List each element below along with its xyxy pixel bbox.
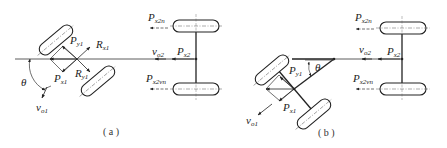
- wheel-rear-lower-b: [376, 80, 430, 100]
- label-Px2n-b: Px2n: [354, 11, 372, 25]
- wheel-front-lower: [76, 61, 120, 101]
- label-theta-b: θ: [315, 61, 321, 73]
- label-Px1-b: Px1: [282, 101, 296, 115]
- label-Px2n: Px2n: [147, 11, 165, 25]
- label-Rx1: Rx1: [95, 38, 109, 52]
- wheel-front-upper-b: [250, 50, 294, 90]
- caption-a: ( a ): [103, 126, 119, 138]
- label-Px2vn: Px2vn: [145, 72, 166, 86]
- label-Ry1: Ry1: [74, 67, 88, 81]
- caption-b: ( b ): [318, 127, 335, 139]
- wheel-rear-upper-b: [376, 16, 430, 38]
- label-Px1: Px1: [53, 72, 67, 86]
- label-theta: θ: [21, 76, 27, 88]
- wheel-rear-lower: [170, 80, 222, 100]
- label-Py1-b: Py1: [288, 64, 302, 78]
- label-vo2: vo2: [152, 45, 164, 59]
- label-Py1: Py1: [69, 34, 83, 48]
- figure: Py1 Rx1 Ry1 Px1 θ vo1 vo2 Px2 Px2n Px2vn…: [0, 0, 447, 148]
- label-vo1-b: vo1: [246, 114, 258, 128]
- panel-a: Py1 Rx1 Ry1 Px1 θ vo1 vo2 Px2 Px2n Px2vn…: [15, 11, 222, 138]
- label-Px2-b: Px2: [386, 45, 401, 59]
- label-vo1: vo1: [36, 101, 48, 115]
- wheel-rear-upper: [170, 14, 222, 36]
- label-vo2-b: vo2: [359, 43, 371, 57]
- label-Px2vn-b: Px2vn: [352, 72, 373, 86]
- label-Px2: Px2: [176, 45, 191, 59]
- panel-b: Py1 θ Px1 vo1 vo2 Px2 Px2n Px2vn ( b ): [246, 11, 430, 139]
